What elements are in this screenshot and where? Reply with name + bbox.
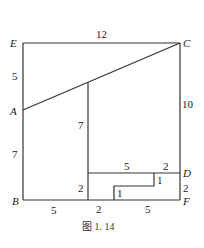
length-inner-small: 2	[78, 182, 84, 194]
length-step-left: 1	[117, 187, 123, 199]
length-inner-vertical: 7	[78, 119, 84, 131]
length-top-right: 2	[163, 160, 169, 172]
length-ab: 7	[12, 148, 18, 160]
point-f: F	[182, 195, 190, 207]
point-b: B	[12, 195, 19, 207]
point-e: E	[9, 37, 17, 49]
figure-caption: 图 1. 14	[82, 221, 115, 232]
length-top-step: 5	[124, 160, 130, 172]
length-step-right: 1	[157, 174, 163, 186]
length-df: 2	[183, 182, 189, 194]
segment-ac	[23, 43, 180, 110]
length-ea: 5	[12, 70, 18, 82]
point-a: A	[9, 105, 17, 117]
length-cf: 10	[182, 98, 194, 110]
geometry-diagram: E C A B D F 12 5 7 10 7 2 5 2 5 5 2 2 1 …	[0, 0, 204, 248]
point-d: D	[182, 167, 191, 179]
length-ec: 12	[96, 28, 107, 40]
length-bottom-mid: 2	[96, 203, 102, 215]
point-c: C	[183, 37, 191, 49]
length-bottom-right: 5	[145, 203, 151, 215]
length-b-left: 5	[51, 204, 57, 216]
